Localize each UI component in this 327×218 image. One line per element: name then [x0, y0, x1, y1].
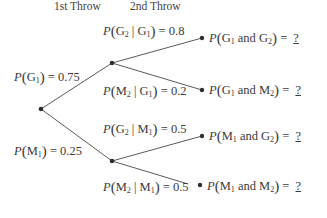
root-node [39, 107, 44, 112]
label-p-m2-given-m1: P(M2 | M1) = 0.5 [103, 180, 189, 194]
value-p-m2-given-m1: 0.5 [173, 180, 189, 194]
answer-blank-3[interactable]: ? [292, 129, 304, 143]
leaf-node-2 [200, 88, 204, 92]
answer-blank-2[interactable]: ? [292, 83, 304, 97]
leaf-node-3 [200, 134, 204, 138]
answer-blank-1[interactable]: ? [290, 31, 302, 45]
leaf-node-4 [198, 183, 202, 187]
value-p-g2-given-g1: 0.8 [169, 24, 185, 38]
outcome-g1-and-m2: P(G1 and M2) = ? [209, 83, 304, 97]
node-g1 [110, 61, 115, 66]
label-p-g1: P(G1) = 0.75 [14, 70, 80, 84]
leaf-node-1 [200, 36, 204, 40]
label-p-g2-given-m1: P(G2 | M1) = 0.5 [103, 122, 187, 136]
node-m1 [110, 159, 115, 164]
outcome-m1-and-g2: P(M1 and G2) = ? [209, 129, 304, 143]
value-p-g2-given-m1: 0.5 [171, 122, 187, 136]
label-p-m2-given-g1: P(M2 | G1) = 0.2 [103, 84, 187, 98]
label-p-g2-given-g1: P(G2 | G1) = 0.8 [103, 24, 184, 38]
value-p-m1: 0.25 [60, 144, 82, 158]
branch-g1-g2 [112, 38, 202, 63]
label-p-m1: P(M1) = 0.25 [14, 144, 82, 158]
value-p-g1: 0.75 [58, 70, 80, 84]
outcome-m1-and-m2: P(M1 and M2) = ? [207, 179, 304, 193]
answer-blank-4[interactable]: ? [293, 179, 305, 193]
branch-m1-g2 [112, 136, 202, 161]
outcome-g1-and-g2: P(G1 and G2) = ? [209, 31, 302, 45]
value-p-m2-given-g1: 0.2 [171, 84, 187, 98]
